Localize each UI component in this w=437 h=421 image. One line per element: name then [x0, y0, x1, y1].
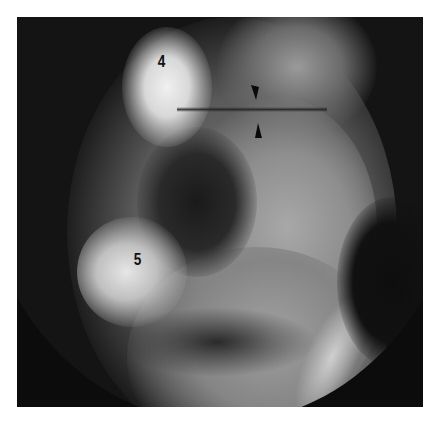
annotation-layer: [0, 0, 437, 421]
label-4: 4: [158, 53, 166, 71]
arrowhead-down-icon: [251, 85, 259, 100]
label-5: 5: [134, 251, 142, 269]
arrowhead-up-icon: [255, 123, 262, 138]
